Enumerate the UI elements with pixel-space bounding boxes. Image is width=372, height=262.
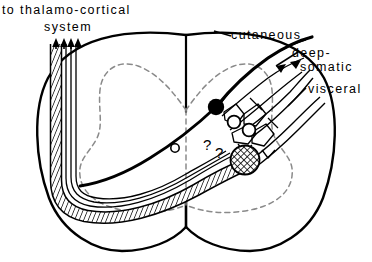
open-circle-neuron-1 xyxy=(228,116,241,129)
crosshatched-interneuron xyxy=(231,146,260,175)
label-thalamo-cortical-line1: to thalamo-cortical xyxy=(2,4,131,17)
label-somatic: somatic xyxy=(300,61,353,74)
label-leader-arrowheads xyxy=(276,60,301,73)
label-thalamo-cortical-line2: system xyxy=(44,21,92,34)
filled-black-neuron-soma xyxy=(208,99,224,115)
label-deep: deep- xyxy=(292,47,331,60)
spinal-cord-diagram: ? ? to thalamo-cortical system cutaneous… xyxy=(0,0,372,262)
open-circle-neuron-small xyxy=(171,144,179,152)
tract-arrowheads xyxy=(52,38,82,49)
open-circle-neuron-2 xyxy=(243,124,256,137)
question-mark-2: ? xyxy=(215,144,223,161)
diagram-canvas: ? ? xyxy=(0,0,372,262)
label-visceral: visceral xyxy=(308,83,362,96)
deep-somatic-afferent-fiber xyxy=(248,70,313,136)
question-mark-1: ? xyxy=(203,136,211,153)
label-cutaneous: cutaneous xyxy=(231,29,301,42)
